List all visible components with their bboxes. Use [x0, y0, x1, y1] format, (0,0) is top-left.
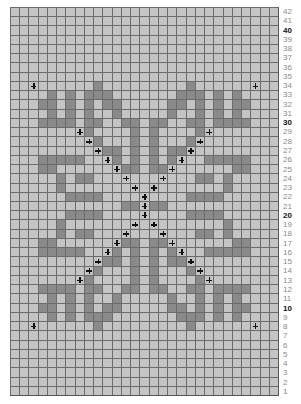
grid-cell	[28, 219, 37, 228]
grid-cell	[176, 293, 185, 302]
grid-cell	[75, 358, 84, 367]
grid-cell	[75, 90, 84, 99]
grid-cell	[223, 146, 232, 155]
grid-cell	[102, 201, 111, 210]
grid-cell	[47, 210, 56, 219]
grid-cell	[121, 312, 130, 321]
grid-cell	[19, 210, 28, 219]
grid-cell	[250, 275, 259, 284]
row-label: 14	[283, 266, 301, 275]
grid-cell	[84, 229, 93, 238]
grid-cell	[47, 146, 56, 155]
grid-cell	[269, 136, 278, 145]
grid-cell	[75, 155, 84, 164]
grid-cell	[195, 81, 204, 90]
grid-cell	[19, 183, 28, 192]
grid-cell	[47, 7, 56, 16]
grid-cell	[75, 173, 84, 182]
grid-cell	[65, 210, 74, 219]
grid-cell	[10, 155, 19, 164]
grid-cell	[176, 340, 185, 349]
grid-cell	[186, 192, 195, 201]
cross-stitch-icon	[250, 321, 259, 330]
row-label: 11	[283, 294, 301, 303]
grid-cell	[158, 53, 167, 62]
grid-cell	[65, 16, 74, 25]
grid-cell	[47, 367, 56, 376]
grid-cell	[56, 7, 65, 16]
grid-cell	[102, 266, 111, 275]
grid-cell	[269, 210, 278, 219]
grid-cell	[213, 192, 222, 201]
grid-cell	[232, 62, 241, 71]
grid-cell	[139, 81, 148, 90]
grid-cell	[213, 358, 222, 367]
grid-cell	[84, 293, 93, 302]
grid-cell	[56, 173, 65, 182]
grid-cell	[84, 146, 93, 155]
grid-cell	[130, 53, 139, 62]
grid-cell	[121, 16, 130, 25]
grid-cell	[93, 377, 102, 386]
grid-cell	[232, 256, 241, 265]
grid-cell	[130, 109, 139, 118]
grid-cell	[149, 293, 158, 302]
grid-cell	[139, 219, 148, 228]
grid-cell	[158, 90, 167, 99]
grid-cell	[84, 210, 93, 219]
grid-cell	[213, 90, 222, 99]
grid-cell	[223, 90, 232, 99]
grid-cell	[56, 44, 65, 53]
grid-cell	[84, 340, 93, 349]
grid-cell	[213, 53, 222, 62]
grid-cell	[121, 118, 130, 127]
grid-cell	[260, 293, 269, 302]
grid-cell	[241, 7, 250, 16]
grid-cell	[38, 7, 47, 16]
grid-cell	[65, 183, 74, 192]
grid-cell	[241, 349, 250, 358]
grid-cell	[28, 293, 37, 302]
grid-cell	[204, 99, 213, 108]
grid-cell	[56, 367, 65, 376]
grid-cell	[241, 62, 250, 71]
grid-cell	[84, 358, 93, 367]
grid-cell	[102, 192, 111, 201]
grid-cell	[47, 183, 56, 192]
grid-cell	[112, 109, 121, 118]
row-label: 29	[283, 127, 301, 136]
grid-cell	[139, 367, 148, 376]
grid-cell	[121, 72, 130, 81]
grid-cell	[19, 340, 28, 349]
cross-stitch-icon	[84, 266, 93, 275]
grid-cell	[28, 358, 37, 367]
grid-cell	[232, 164, 241, 173]
grid-cell	[176, 62, 185, 71]
grid-cell	[158, 293, 167, 302]
grid-cell	[19, 330, 28, 339]
grid-cell	[139, 25, 148, 34]
grid-cell	[223, 303, 232, 312]
grid-cell	[10, 7, 19, 16]
grid-cell	[102, 303, 111, 312]
cross-stitch-icon	[139, 192, 148, 201]
grid-cell	[130, 312, 139, 321]
grid-cell	[186, 247, 195, 256]
grid-cell	[149, 109, 158, 118]
grid-cell	[102, 229, 111, 238]
grid-cell	[84, 62, 93, 71]
grid-cell	[47, 44, 56, 53]
grid-cell	[102, 16, 111, 25]
knitting-chart	[10, 7, 279, 396]
grid-cell	[121, 284, 130, 293]
grid-cell	[10, 62, 19, 71]
grid-cell	[121, 293, 130, 302]
grid-cell	[195, 284, 204, 293]
grid-cell	[75, 136, 84, 145]
grid-cell	[250, 136, 259, 145]
grid-cell	[260, 303, 269, 312]
row-label: 4	[283, 359, 301, 368]
grid-cell	[47, 266, 56, 275]
grid-cell	[102, 293, 111, 302]
grid-cell	[250, 340, 259, 349]
